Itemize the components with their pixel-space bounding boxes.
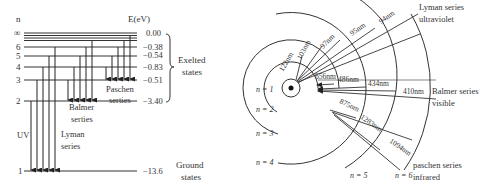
level-label-4: 4 [16, 62, 21, 72]
balmer-series-label-2: visible [432, 98, 455, 108]
excited-states-brace [166, 34, 174, 102]
wavelength-103nm: 103nm [295, 38, 313, 61]
lyman-label-2: series [61, 141, 80, 151]
energy-value-4: −0.83 [143, 62, 163, 72]
energy-value-2: −3.40 [143, 96, 163, 106]
wavelength-97nm: 97nm [318, 32, 337, 51]
paschen-label-2: serties [109, 95, 131, 105]
wavelength-434nm: 434nm [368, 79, 389, 88]
lyman-transitions [31, 47, 55, 170]
ground-states-label-1: Ground [176, 160, 204, 170]
balmer-transitions [68, 41, 92, 100]
balmer-series-label-1: Balmer series [432, 86, 479, 96]
orbit-label-n1: n = 1 [256, 85, 273, 94]
uv-label: UV [17, 130, 30, 140]
level-label-2: 2 [16, 96, 21, 106]
paschen-transitions [106, 36, 130, 79]
hydrogen-spectrum-figure: n E(eV) ∞ 6 5 4 3 2 1 0.00 −0 [0, 0, 485, 192]
level-label-3: 3 [16, 75, 21, 85]
excited-states-label-2: states [182, 67, 202, 77]
wavelength-656nm: 656nm [315, 72, 336, 81]
paschen-series-label-2: infrared [413, 172, 441, 182]
level-label-1: 1 [18, 166, 23, 176]
nucleus [289, 86, 294, 91]
excited-states-label-1: Exelted [178, 55, 206, 65]
level-label-5: 5 [16, 51, 21, 61]
bohr-orbit-diagram: 122nm 103nm 97nm 95nm 94nm 656nm 486nm 4… [243, 0, 478, 182]
lyman-series-label-1: Lyman series [419, 2, 464, 12]
lyman-label-1: Lyman [61, 129, 85, 139]
lyman-series-label-2: ultraviolet [419, 14, 455, 24]
ground-states-label-2: states [181, 172, 201, 182]
wavelength-410nm: 410nm [403, 87, 424, 96]
energy-value-5: −0.54 [143, 50, 163, 60]
balmer-label-1: Balmer [69, 102, 94, 112]
orbit-label-n2: n = 2 [256, 105, 273, 114]
paschen-series-label-1: paschen series [413, 160, 462, 170]
energy-level-diagram: n E(eV) ∞ 6 5 4 3 2 1 0.00 −0 [14, 14, 206, 182]
orbit-label-n4: n = 4 [256, 158, 273, 167]
energy-axis-label: E(eV) [128, 14, 150, 24]
wavelength-486nm: 486nm [338, 75, 359, 84]
energy-value-1: −13.6 [143, 166, 163, 176]
wavelength-875nm: 875nm [338, 97, 361, 114]
paschen-label-1: Paschen [106, 84, 135, 94]
orbit-label-n5: n = 5 [350, 171, 367, 180]
wavelength-94nm: 94nm [377, 8, 396, 25]
orbit-label-n6: n = 6 [395, 171, 412, 180]
orbit-label-n3: n = 3 [256, 129, 273, 138]
n-axis-label: n [16, 14, 21, 24]
orbit-n5-upper [291, 0, 381, 19]
level-label-inf: ∞ [14, 28, 20, 38]
energy-value-inf: 0.00 [146, 28, 161, 38]
balmer-label-2: serties [71, 114, 93, 124]
energy-value-3: −0.51 [143, 75, 163, 85]
